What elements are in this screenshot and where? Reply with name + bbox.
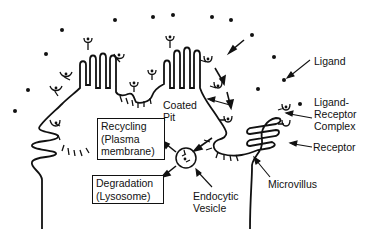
endocytosis-diagram: Ligand Ligand- Receptor Complex Receptor… bbox=[0, 0, 370, 229]
degradation-line2: (Lysosome) bbox=[96, 190, 160, 203]
recycling-line3: membrane) bbox=[101, 145, 161, 158]
degradation-box: Degradation (Lysosome) bbox=[92, 175, 164, 204]
label-ligand-receptor-complex-line3: Complex bbox=[314, 120, 355, 132]
ligand-dots bbox=[13, 13, 302, 113]
label-pointers bbox=[196, 60, 312, 187]
label-ligand-receptor-complex-line1: Ligand- bbox=[314, 96, 349, 108]
label-receptor: Receptor bbox=[313, 141, 356, 153]
recycling-line2: (Plasma bbox=[101, 133, 161, 146]
label-endocytic-vesicle-line2: Vesicle bbox=[193, 202, 226, 214]
label-ligand: Ligand bbox=[314, 55, 346, 67]
recycling-line1: Recycling bbox=[101, 120, 161, 133]
label-endocytic-vesicle-line1: Endocytic bbox=[193, 190, 239, 202]
recycling-box: Recycling (Plasma membrane) bbox=[97, 118, 165, 160]
degradation-line1: Degradation bbox=[96, 177, 160, 190]
label-coated-pit-line1: Coated bbox=[163, 99, 197, 111]
label-ligand-receptor-complex-line2: Receptor bbox=[314, 108, 357, 120]
label-microvillus: Microvillus bbox=[268, 178, 317, 190]
